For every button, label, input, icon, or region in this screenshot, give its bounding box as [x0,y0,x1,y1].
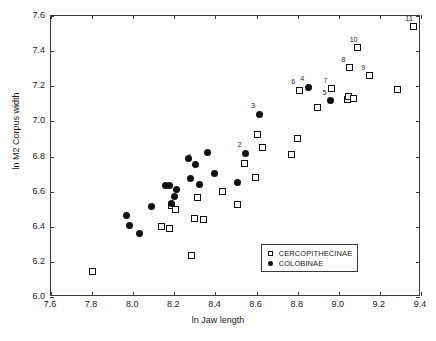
data-point [410,23,417,30]
legend-item-label: COLOBINAE [279,259,324,268]
data-point [204,149,211,156]
data-point [294,135,301,142]
data-point-label: 2 [238,141,242,148]
y-axis-tick-right [416,51,420,52]
y-axis-tick [50,297,54,298]
x-axis-tick [133,292,134,296]
x-axis-tick-label: 8.6 [236,299,276,309]
data-point [194,194,201,201]
y-axis-tick [50,51,54,52]
x-axis-tick-label: 9.4 [400,299,436,309]
y-axis-tick-right [416,86,420,87]
x-axis-tick [215,292,216,296]
legend: CERCOPITHECINAECOLOBINAE [261,244,359,272]
x-axis-tick [339,292,340,296]
data-point-label: 10 [350,36,358,43]
data-point [136,230,143,237]
y-axis-tick [50,157,54,158]
data-point-label: 9 [361,64,365,71]
y-axis-tick-label: 6.4 [19,221,45,231]
data-point [196,181,203,188]
data-point [350,95,357,102]
data-point [328,85,335,92]
y-axis-tick-right [416,16,420,17]
data-point [256,111,263,118]
data-point [327,97,334,104]
plot-area: 6781091112345 [51,16,419,295]
x-axis-tick [380,292,381,296]
data-point-label: 1 [188,153,192,160]
y-axis-tick-label: 6.8 [19,151,45,161]
y-axis-tick-label: 7.0 [19,115,45,125]
y-axis-tick-right [416,121,420,122]
data-point [187,175,194,182]
data-point-label: 4 [300,75,304,82]
x-axis-tick-top [215,15,216,19]
data-point [126,222,133,229]
y-axis-tick-label: 6.6 [19,186,45,196]
data-point [166,182,173,189]
plot-frame: 6781091112345 CERCOPITHECINAECOLOBINAE [50,15,420,296]
x-axis-tick [92,292,93,296]
data-point [252,174,259,181]
x-axis-tick [421,292,422,296]
x-axis-tick-top [298,15,299,19]
y-axis-tick-right [416,227,420,228]
data-point-label: 11 [406,15,413,22]
data-point [354,44,361,51]
x-axis-tick-label: 9.2 [359,299,399,309]
data-point [242,150,249,157]
y-axis-tick-right [416,297,420,298]
data-point [188,252,195,259]
x-axis-tick-label: 8.4 [194,299,234,309]
data-point-label: 6 [291,78,295,85]
data-point-label: 8 [341,56,345,63]
y-axis-tick [50,262,54,263]
legend-marker-glyph [268,251,273,256]
data-point [192,161,199,168]
data-point [123,212,130,219]
data-point [234,201,241,208]
data-point-label: 7 [323,77,327,84]
x-axis-tick-top [339,15,340,19]
data-point [254,131,261,138]
filled-circle-icon [266,261,276,266]
x-axis-tick-top [257,15,258,19]
x-axis-tick-top [174,15,175,19]
y-axis-tick [50,121,54,122]
data-point [148,203,155,210]
data-point [191,215,198,222]
x-axis-tick-label: 8.2 [153,299,193,309]
data-point [259,144,266,151]
data-point-label: 3 [251,102,255,109]
x-axis-tick-top [92,15,93,19]
x-axis-tick [257,292,258,296]
legend-item: CERCOPITHECINAE [266,248,353,258]
y-axis-tick-label: 7.2 [19,80,45,90]
data-point [241,160,248,167]
data-point [366,72,373,79]
legend-item-label: CERCOPITHECINAE [279,249,353,258]
data-point [211,170,218,177]
x-axis-tick-top [380,15,381,19]
legend-item: COLOBINAE [266,258,353,268]
y-axis-tick-label: 7.6 [19,10,45,20]
legend-marker-glyph [268,261,273,266]
x-axis-tick-label: 8.8 [277,299,317,309]
data-point [394,86,401,93]
data-point [234,179,241,186]
y-axis-title: ln M2 Corpus width [11,31,21,231]
data-point [173,186,180,193]
y-axis-tick-label: 6.0 [19,291,45,301]
data-point [346,64,353,71]
data-point [200,216,207,223]
x-axis-tick-label: 8.0 [112,299,152,309]
x-axis-tick-top [421,15,422,19]
x-axis-tick-label: 7.8 [71,299,111,309]
data-point [296,87,303,94]
y-axis-tick-right [416,192,420,193]
y-axis-tick-label: 7.4 [19,45,45,55]
y-axis-tick [50,192,54,193]
open-square-icon [266,251,276,256]
x-axis-title: ln Jaw length [0,315,436,325]
